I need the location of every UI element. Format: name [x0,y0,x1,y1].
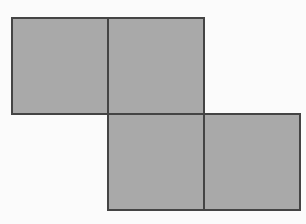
square-top-left [11,17,109,115]
tetromino-figure [0,0,306,224]
square-bottom-right [203,113,301,211]
square-bottom-left [107,113,205,211]
square-top-right [107,17,205,115]
